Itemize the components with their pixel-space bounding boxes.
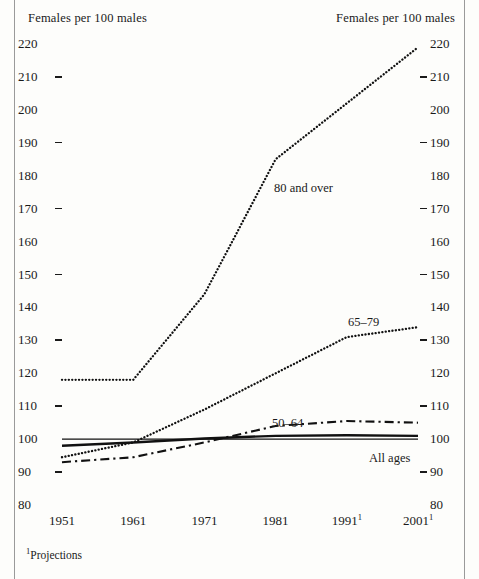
y-tick-dash-left-110 <box>55 405 62 407</box>
y-tick-dash-right-190 <box>420 142 427 144</box>
x-tick-label-2001: 20011 <box>403 513 433 529</box>
y-tick-label-right-150: 150 <box>430 268 470 281</box>
series-line-50-64 <box>62 421 418 462</box>
footnote: 1Projections <box>26 549 82 561</box>
y-tick-label-right-120: 120 <box>430 366 470 379</box>
plot-area <box>0 0 479 579</box>
x-tick-label-1961: 1961 <box>120 513 146 529</box>
x-tick-footnote-mark: 1 <box>358 512 362 522</box>
y-tick-label-right-140: 140 <box>430 300 470 313</box>
y-tick-label-right-100: 100 <box>430 432 470 445</box>
chart-figure: Females per 100 males Females per 100 ma… <box>0 0 479 579</box>
y-tick-label-right-160: 160 <box>430 235 470 248</box>
x-tick-label-1981: 1981 <box>263 513 289 529</box>
y-tick-dash-left-90 <box>55 471 62 473</box>
y-tick-label-right-130: 130 <box>430 333 470 346</box>
x-tick-label-1971: 1971 <box>191 513 217 529</box>
y-tick-dash-left-150 <box>55 274 62 276</box>
y-tick-label-right-170: 170 <box>430 202 470 215</box>
y-tick-dash-right-210 <box>420 76 427 78</box>
y-tick-label-right-90: 90 <box>430 465 470 478</box>
series-label-all-ages: All ages <box>369 451 410 466</box>
y-tick-dash-right-170 <box>420 208 427 210</box>
y-tick-dash-right-110 <box>420 405 427 407</box>
y-tick-label-right-190: 190 <box>430 136 470 149</box>
y-tick-label-left-80: 80 <box>18 498 64 511</box>
x-tick-label-1951: 1951 <box>49 513 75 529</box>
y-tick-label-left-100: 100 <box>18 432 64 445</box>
y-tick-dash-left-130 <box>55 339 62 341</box>
x-tick-label-1991: 19911 <box>332 513 362 529</box>
series-label-80-and-over: 80 and over <box>274 181 333 196</box>
y-tick-label-right-110: 110 <box>430 399 470 412</box>
y-tick-dash-right-90 <box>420 471 427 473</box>
y-tick-dash-left-210 <box>55 76 62 78</box>
y-tick-label-right-220: 220 <box>430 37 470 50</box>
series-line-all-ages <box>62 435 418 446</box>
y-tick-label-left-120: 120 <box>18 366 64 379</box>
y-tick-label-right-80: 80 <box>430 498 470 511</box>
y-tick-dash-left-170 <box>55 208 62 210</box>
y-tick-label-left-200: 200 <box>18 103 64 116</box>
y-tick-dash-left-190 <box>55 142 62 144</box>
y-tick-label-right-180: 180 <box>430 169 470 182</box>
footnote-text: Projections <box>30 549 82 561</box>
y-tick-dash-right-130 <box>420 339 427 341</box>
y-tick-label-left-160: 160 <box>18 235 64 248</box>
y-tick-label-right-200: 200 <box>430 103 470 116</box>
series-label-50-64: 50–64 <box>272 416 303 431</box>
y-tick-label-right-210: 210 <box>430 70 470 83</box>
y-tick-label-left-140: 140 <box>18 300 64 313</box>
y-tick-label-left-180: 180 <box>18 169 64 182</box>
y-tick-label-left-220: 220 <box>18 37 64 50</box>
x-tick-footnote-mark: 1 <box>429 512 433 522</box>
series-label-65-79: 65–79 <box>348 315 379 330</box>
y-tick-dash-right-150 <box>420 274 427 276</box>
